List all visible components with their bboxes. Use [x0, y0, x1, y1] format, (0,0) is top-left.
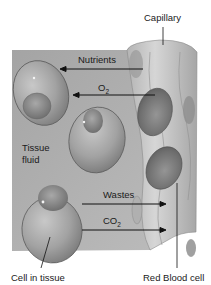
cell-in-tissue-label: Cell in tissue: [11, 272, 65, 283]
nutrients-label: Nutrients: [78, 54, 116, 65]
capillary-label: Capillary: [144, 12, 181, 23]
red-blood-cell-label: Red Blood cell: [143, 272, 204, 283]
tissue-fluid-label-line2: fluid: [22, 154, 39, 165]
tissue-fluid-label-line1: Tissue: [22, 142, 50, 153]
capillary-exchange-diagram: Capillary Nutrients O2 Tissue fluid Wast…: [0, 0, 211, 285]
wastes-label: Wastes: [103, 189, 135, 200]
